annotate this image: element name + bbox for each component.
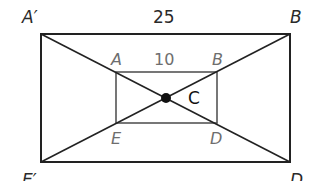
label-outer-bottom-right: D xyxy=(290,170,303,181)
label-outer-top-left: A′ xyxy=(21,7,38,27)
center-point xyxy=(161,93,171,103)
label-outer-bottom-left: E′ xyxy=(22,170,37,181)
label-inner-top-left: A xyxy=(110,50,122,69)
label-inner-bottom-right: D xyxy=(210,129,222,148)
label-outer-length: 25 xyxy=(153,7,175,27)
label-inner-length: 10 xyxy=(154,50,174,69)
label-inner-bottom-left: E xyxy=(111,129,122,148)
label-inner-top-right: B xyxy=(212,50,223,69)
dilation-diagram: A′ 25 B E′ D A 10 B E D C xyxy=(0,0,309,181)
label-center: C xyxy=(188,88,200,108)
label-outer-top-right: B xyxy=(290,7,302,27)
